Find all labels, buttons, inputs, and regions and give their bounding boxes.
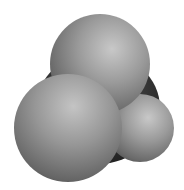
- outer-atom-left: [14, 74, 122, 182]
- molecule-model: [0, 0, 184, 190]
